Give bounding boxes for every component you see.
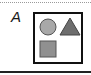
square-shape [40,41,56,57]
triangle-shape [60,18,80,35]
top-dotted-divider [0,2,91,3]
bottom-divider [0,71,91,73]
circle-shape [40,19,56,35]
panel-label: A [11,9,21,24]
shapes-group [35,14,81,62]
shape-frame [33,12,83,64]
